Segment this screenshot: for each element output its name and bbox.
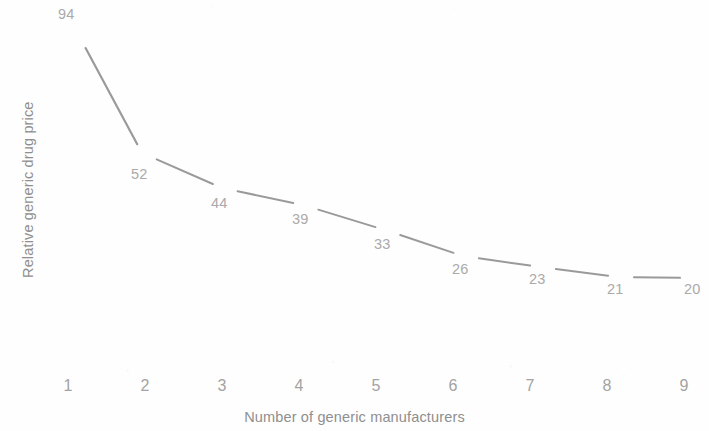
data-point-label: 94 bbox=[58, 7, 75, 22]
series-line-chart-svg bbox=[0, 0, 709, 431]
data-point-label: 23 bbox=[529, 272, 546, 287]
data-point-label: 52 bbox=[131, 167, 148, 182]
x-axis-tick-label: 5 bbox=[372, 378, 381, 394]
data-point-label: 21 bbox=[607, 282, 624, 297]
data-point-label: 44 bbox=[211, 196, 228, 211]
x-axis-tick-label: 9 bbox=[680, 378, 689, 394]
data-point-label: 26 bbox=[452, 262, 469, 277]
series-segment bbox=[400, 235, 453, 253]
data-point-label: 39 bbox=[292, 212, 309, 227]
x-axis-tick-label: 4 bbox=[295, 378, 304, 394]
series-segment bbox=[238, 191, 294, 203]
series-segment bbox=[479, 258, 530, 265]
x-axis-tick-labels: 123456789 bbox=[0, 378, 709, 400]
x-axis-title: Number of generic manufacturers bbox=[0, 409, 709, 426]
series-segment bbox=[157, 159, 213, 184]
x-axis-tick-label: 1 bbox=[64, 378, 73, 394]
series-segment bbox=[634, 277, 680, 278]
x-axis-tick-label: 3 bbox=[218, 378, 227, 394]
series-segment bbox=[318, 210, 375, 227]
x-axis-tick-label: 2 bbox=[141, 378, 150, 394]
data-point-label: 33 bbox=[374, 237, 391, 252]
series-segment bbox=[86, 48, 138, 144]
plot-area: 945244393326232120 bbox=[0, 0, 709, 431]
data-point-label: 20 bbox=[684, 282, 701, 297]
x-axis-tick-label: 7 bbox=[526, 378, 535, 394]
x-axis-tick-label: 8 bbox=[603, 378, 612, 394]
series-segment bbox=[556, 269, 608, 276]
relative-generic-drug-price-line-chart: Relative generic drug price 945244393326… bbox=[0, 0, 709, 431]
x-axis-tick-label: 6 bbox=[449, 378, 458, 394]
